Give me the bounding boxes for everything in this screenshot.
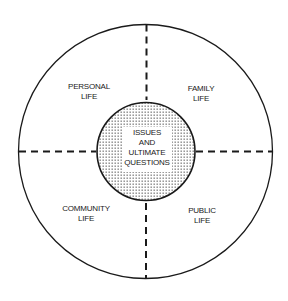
center-label: ISSUES AND ULTIMATE QUESTIONS: [124, 128, 169, 168]
quadrant-personal-line-1: PERSONAL: [68, 82, 110, 92]
quadrant-family-line-2: LIFE: [188, 94, 215, 104]
center-line-1: ISSUES: [124, 128, 169, 138]
quadrant-community-life: COMMUNITY LIFE: [62, 204, 110, 224]
center-line-3: ULTIMATE: [124, 148, 169, 158]
quadrant-public-line-1: PUBLIC: [188, 206, 216, 216]
quadrant-community-line-1: COMMUNITY: [62, 204, 110, 214]
center-line-2: AND: [124, 138, 169, 148]
quadrant-personal-line-2: LIFE: [68, 92, 110, 102]
quadrant-public-line-2: LIFE: [188, 216, 216, 226]
quadrant-family-life: FAMILY LIFE: [188, 84, 215, 104]
quadrant-public-life: PUBLIC LIFE: [188, 206, 216, 226]
quadrant-community-line-2: LIFE: [62, 214, 110, 224]
quadrant-personal-life: PERSONAL LIFE: [68, 82, 110, 102]
quadrant-family-line-1: FAMILY: [188, 84, 215, 94]
life-domains-diagram: ISSUES AND ULTIMATE QUESTIONS PERSONAL L…: [0, 0, 288, 301]
center-line-4: QUESTIONS: [124, 158, 169, 168]
